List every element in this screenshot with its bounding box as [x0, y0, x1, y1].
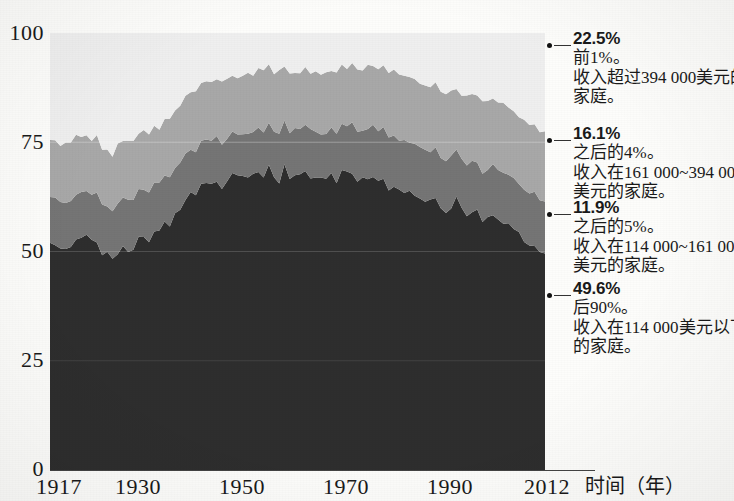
annotation-group-3: 之后的5%。 — [573, 217, 734, 237]
annotation-list: 22.5% 前1%。 收入超过394 000美元的 家庭。 16.1% 之后的4… — [545, 0, 734, 501]
annotation-percent-2: 16.1% — [573, 125, 734, 143]
x-tick-1990: 1990 — [427, 476, 473, 498]
annotation-desc-3a: 收入在114 000~161 000 — [573, 237, 734, 257]
x-tick-1970: 1970 — [323, 476, 369, 498]
x-tick-1917: 1917 — [36, 476, 82, 498]
annotation-desc-2a: 收入在161 000~394 000 — [573, 163, 734, 183]
stacked-area-chart — [50, 33, 545, 470]
x-tick-1950: 1950 — [219, 476, 265, 498]
y-axis: 100 75 50 25 0 — [0, 0, 44, 501]
leader-dot-4 — [547, 293, 552, 298]
annotation-desc-4a: 收入在114 000美元以下 — [573, 318, 734, 338]
leader-dot-2 — [547, 138, 552, 143]
leader-rule-1 — [554, 45, 571, 47]
leader-dot-3 — [547, 212, 552, 217]
leader-line-2 — [545, 134, 571, 144]
annotation-percent-4: 49.6% — [573, 280, 734, 298]
leader-rule-2 — [554, 140, 571, 142]
leader-line-3 — [545, 208, 571, 218]
leader-dot-1 — [547, 43, 552, 48]
leader-rule-4 — [554, 295, 571, 297]
x-tick-1930: 1930 — [115, 476, 161, 498]
annotation-desc-1b: 家庭。 — [573, 87, 734, 107]
annotation-group-1: 前1%。 — [573, 48, 734, 68]
y-tick-75: 75 — [0, 131, 44, 153]
annotation-percent-1: 22.5% — [573, 30, 734, 48]
y-tick-50: 50 — [0, 240, 44, 262]
leader-rule-3 — [554, 214, 571, 216]
annotation-desc-1a: 收入超过394 000美元的 — [573, 68, 734, 88]
y-tick-100: 100 — [0, 22, 44, 44]
plot-area — [50, 33, 545, 470]
chart-figure: 100 75 50 25 0 1917 1930 1950 1970 1990 … — [0, 0, 734, 501]
annotation-percent-3: 11.9% — [573, 199, 734, 217]
annotation-group-4: 后90%。 — [573, 298, 734, 318]
annotation-desc-4b: 的家庭。 — [573, 337, 734, 357]
y-tick-25: 25 — [0, 349, 44, 371]
annotation-desc-3b: 美元的家庭。 — [573, 256, 734, 276]
leader-line-4 — [545, 289, 571, 299]
leader-line-1 — [545, 39, 571, 49]
annotation-group-2: 之后的4%。 — [573, 143, 734, 163]
